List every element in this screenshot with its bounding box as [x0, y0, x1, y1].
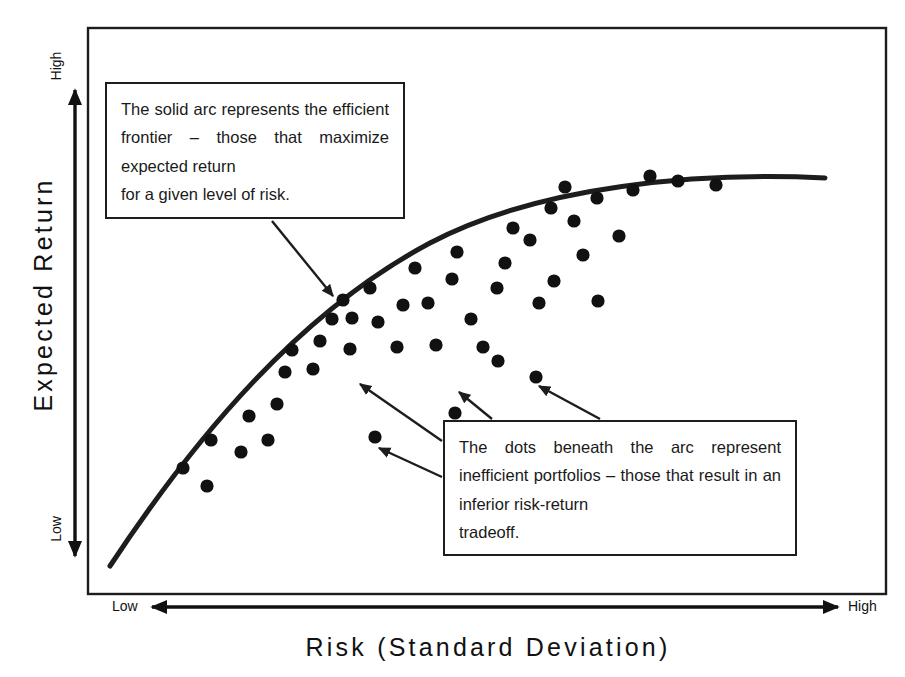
portfolio-dot	[547, 274, 560, 287]
portfolio-dot	[626, 183, 639, 196]
portfolio-dot	[396, 298, 409, 311]
portfolio-dot	[709, 178, 722, 191]
portfolio-dot	[491, 354, 504, 367]
portfolio-dot	[506, 221, 519, 234]
portfolio-dot	[490, 281, 503, 294]
portfolio-dot	[408, 261, 421, 274]
figure-canvas: Expected Return High Low Risk (Standard …	[0, 0, 905, 677]
portfolio-dot	[429, 338, 442, 351]
callout-efficient-frontier-line2: for a given level of risk.	[121, 180, 389, 208]
portfolio-dot	[529, 370, 542, 383]
portfolio-dot	[445, 272, 458, 285]
portfolio-dot	[306, 362, 319, 375]
portfolio-dot	[590, 191, 603, 204]
callout-efficient-frontier: The solid arc represents the efficient f…	[105, 82, 405, 219]
portfolio-dot	[450, 245, 463, 258]
portfolio-dot	[325, 312, 338, 325]
portfolio-dot	[498, 256, 511, 269]
portfolio-dot	[234, 445, 247, 458]
callout-inefficient-portfolios-line2: tradeoff.	[459, 518, 781, 546]
x-axis-title: Risk (Standard Deviation)	[88, 633, 888, 662]
portfolio-dot	[261, 433, 274, 446]
portfolio-dot	[200, 479, 213, 492]
portfolio-dot	[368, 430, 381, 443]
portfolio-dot	[285, 343, 298, 356]
callout-efficient-frontier-line1: The solid arc represents the efficient f…	[121, 95, 389, 180]
portfolio-dot	[176, 461, 189, 474]
portfolio-dot	[343, 342, 356, 355]
portfolio-dot	[336, 293, 349, 306]
portfolio-dot	[270, 397, 283, 410]
portfolio-dot	[476, 340, 489, 353]
portfolio-dot	[567, 214, 580, 227]
x-axis-high-label: High	[848, 598, 877, 614]
portfolio-dot	[523, 233, 536, 246]
y-axis-high-label: High	[48, 26, 64, 106]
y-axis-low-label: Low	[48, 489, 64, 569]
portfolio-dot	[591, 294, 604, 307]
callout-inefficient-portfolios: The dots beneath the arc represent ineff…	[443, 420, 797, 556]
portfolio-dot	[371, 315, 384, 328]
portfolio-dot	[544, 201, 557, 214]
y-axis-title: Expected Return	[29, 85, 58, 505]
portfolio-dot	[671, 174, 684, 187]
x-axis-low-label: Low	[112, 598, 138, 614]
portfolio-dot	[363, 281, 376, 294]
portfolio-dot	[313, 334, 326, 347]
portfolio-dot	[448, 406, 461, 419]
callout-inefficient-portfolios-line1: The dots beneath the arc represent ineff…	[459, 433, 781, 518]
portfolio-dot	[576, 248, 589, 261]
portfolio-dot	[558, 180, 571, 193]
portfolio-dot	[278, 365, 291, 378]
portfolio-dot	[532, 296, 545, 309]
portfolio-dot	[345, 311, 358, 324]
portfolio-dot	[643, 169, 656, 182]
portfolio-dot	[204, 433, 217, 446]
portfolio-dot	[390, 340, 403, 353]
portfolio-dot	[421, 296, 434, 309]
portfolio-dot	[612, 229, 625, 242]
portfolio-dot	[242, 409, 255, 422]
portfolio-dot	[464, 312, 477, 325]
